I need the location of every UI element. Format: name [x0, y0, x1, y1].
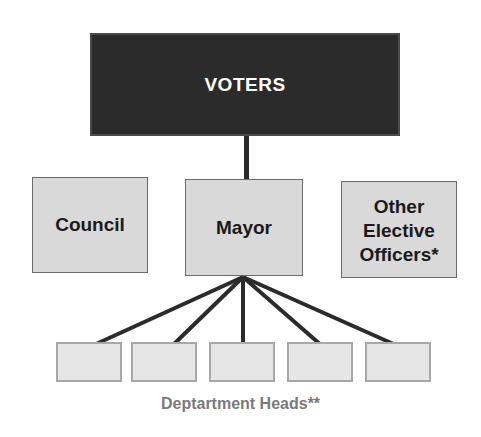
mayor-to-dept-5-line: [243, 277, 398, 346]
council-node: Council: [32, 177, 148, 273]
mayor-to-dept-2-line: [174, 277, 243, 344]
other-elective-officers-node: Other Elective Officers*: [341, 181, 457, 278]
council-label: Council: [55, 213, 125, 237]
other-elective-officers-label: Other Elective Officers*: [351, 195, 447, 267]
mayor-to-dept-1-line: [96, 277, 243, 344]
department-box-1: [56, 342, 122, 382]
mayor-to-dept-4-line: [243, 277, 321, 345]
department-box-2: [131, 342, 197, 382]
department-box-5: [365, 342, 431, 382]
department-box-4: [287, 342, 353, 382]
voters-node: VOTERS: [90, 33, 400, 136]
mayor-node: Mayor: [185, 179, 303, 276]
department-heads-caption: Deptartment Heads**: [0, 395, 481, 413]
voters-label: VOTERS: [204, 74, 285, 96]
mayor-label: Mayor: [216, 216, 272, 240]
department-box-3: [209, 342, 275, 382]
